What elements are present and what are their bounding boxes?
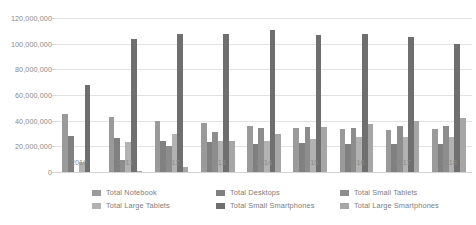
legend-label: Total Large Tablets (106, 201, 170, 210)
x-tick-label: 2012 (148, 158, 194, 167)
y-tick-label: 100,000,000 (11, 39, 52, 48)
legend-swatch-icon (216, 190, 225, 196)
y-tick-label: 120,000,000 (11, 14, 52, 23)
bar-group (148, 18, 194, 172)
legend-label: Total Small Smartphones (230, 201, 314, 210)
legend-item[interactable]: Total Large Smartphones (340, 199, 464, 212)
bar-group (241, 18, 287, 172)
y-tick-label: 80,000,000 (15, 65, 52, 74)
y-axis: 020,000,00040,000,00060,000,00080,000,00… (0, 0, 56, 180)
legend-item[interactable]: Total Notebook (92, 186, 216, 199)
x-tick-label: 2013 (195, 158, 241, 167)
bar-group (56, 18, 102, 172)
x-tick-label: 2010 (56, 158, 102, 167)
bar-chart: 020,000,00040,000,00060,000,00080,000,00… (0, 0, 476, 225)
x-tick-label: 2011 (102, 158, 148, 167)
legend-swatch-icon (92, 190, 101, 196)
x-tick-label: 2018 (426, 158, 472, 167)
plot-area: 020,000,00040,000,00060,000,00080,000,00… (0, 0, 476, 180)
bar (131, 39, 137, 172)
bars-layer (56, 18, 472, 172)
legend-swatch-icon (340, 203, 349, 209)
x-tick-label: 2017 (380, 158, 426, 167)
bar (183, 167, 189, 172)
y-tick-label: 20,000,000 (15, 142, 52, 151)
y-tickmark (52, 172, 56, 173)
legend-item[interactable]: Total Desktops (216, 186, 340, 199)
bar (229, 141, 235, 172)
gridline (56, 172, 472, 173)
bar-group (102, 18, 148, 172)
x-axis: 201020112012201320142015201620172018 (56, 158, 472, 167)
legend-item[interactable]: Total Small Tablets (340, 186, 464, 199)
bar-group (426, 18, 472, 172)
legend-swatch-icon (340, 190, 349, 196)
x-tick-label: 2014 (241, 158, 287, 167)
x-tick-label: 2015 (287, 158, 333, 167)
y-tick-label: 60,000,000 (15, 91, 52, 100)
legend-label: Total Small Tablets (354, 188, 417, 197)
bar (137, 171, 143, 172)
bar-group (380, 18, 426, 172)
legend-label: Total Notebook (106, 188, 157, 197)
legend-swatch-icon (216, 203, 225, 209)
bar (177, 34, 183, 172)
legend-label: Total Large Smartphones (354, 201, 439, 210)
y-tick-label: 40,000,000 (15, 116, 52, 125)
legend-item[interactable]: Total Large Tablets (92, 199, 216, 212)
bar-group (287, 18, 333, 172)
chart-legend: Total NotebookTotal DesktopsTotal Small … (92, 186, 464, 212)
bar-group (195, 18, 241, 172)
legend-item[interactable]: Total Small Smartphones (216, 199, 340, 212)
legend-label: Total Desktops (230, 188, 280, 197)
x-tick-label: 2016 (333, 158, 379, 167)
legend-swatch-icon (92, 203, 101, 209)
bar-group (333, 18, 379, 172)
